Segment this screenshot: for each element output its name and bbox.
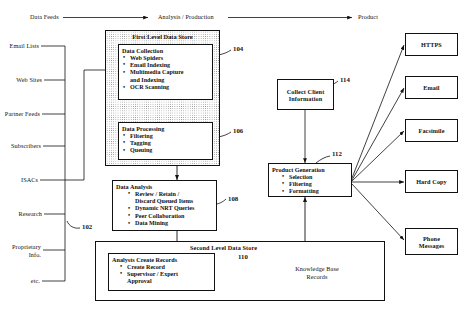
ref-number-108: 108 <box>228 195 238 202</box>
analysts-bullets: Create Record Supervisor / Expert Approv… <box>109 264 214 286</box>
data-processing-title: Data Processing <box>122 125 212 132</box>
source-label-research: Research <box>0 210 42 217</box>
collect-client-line1: Collect Client <box>278 88 333 95</box>
bullet-item: Selection <box>289 174 351 181</box>
bullet-item: Multimedia Capture <box>130 69 212 76</box>
output-box-https: HTTPS <box>405 33 458 56</box>
source-label-email-lists: Email Lists <box>0 42 39 49</box>
data-collection-bullets: Web Spiders Email Indexing Multimedia Ca… <box>119 55 212 92</box>
knowledge-base-label-line1: Knowledge Base <box>277 265 357 273</box>
bullet-item-continuation: Approval <box>127 278 214 285</box>
leader-102 <box>67 221 80 228</box>
output-label-phone-line1: Phone <box>406 235 457 242</box>
arrow-pg-to-https <box>352 45 404 178</box>
second-level-data-store-title: Second Level Data Store <box>190 244 257 251</box>
bullet-item-continuation: and Indexing <box>130 77 212 84</box>
bullet-item: Email Indexing <box>130 62 212 69</box>
stage-label-product: Product <box>358 13 378 20</box>
product-generation-title: Product Generation <box>272 166 351 173</box>
bullet-item: Peer Collaboration <box>135 213 216 220</box>
output-label-https: HTTPS <box>406 41 457 48</box>
output-box-hard-copy: Hard Copy <box>405 170 458 193</box>
source-label-web-sites: Web Sites <box>0 76 42 83</box>
source-label-partner-feeds: Partner Feeds <box>0 110 40 117</box>
knowledge-base-label-line2: Records <box>277 273 357 281</box>
bullet-item: Formatting <box>289 188 351 195</box>
first-level-data-store-title: First Level Data Store <box>105 33 220 40</box>
arrow-pg-to-phone-messages <box>352 184 404 240</box>
bullet-item: Tagging <box>130 140 212 147</box>
analysts-create-records-box: Analysts Create Records Create Record Su… <box>108 253 215 291</box>
ref-number-112: 112 <box>332 150 342 157</box>
ref-number-102: 102 <box>82 223 92 230</box>
ref-number-106: 106 <box>233 127 243 134</box>
data-collection-box: Data Collection Web Spiders Email Indexi… <box>118 44 213 100</box>
bullet-item: OCR Scanning <box>130 84 212 91</box>
ref-number-114: 114 <box>340 76 350 83</box>
output-label-email: Email <box>406 84 457 91</box>
analysts-create-records-title: Analysts Create Records <box>112 256 214 263</box>
ref-number-110: 110 <box>238 253 248 260</box>
ref-number-104: 104 <box>233 45 243 52</box>
data-collection-title: Data Collection <box>122 47 212 54</box>
leader-112 <box>316 156 330 163</box>
collect-client-line2: Information <box>278 95 333 102</box>
arrow-pg-to-facsimile <box>352 131 404 181</box>
bullet-item: Filtering <box>130 133 212 140</box>
data-processing-bullets: Filtering Tagging Queuing <box>119 133 212 155</box>
output-label-hard-copy: Hard Copy <box>406 178 457 185</box>
bullet-item: Filtering <box>289 181 351 188</box>
output-box-email: Email <box>405 76 458 99</box>
data-analysis-bullets: Review / Retain / Discard Queued Items D… <box>113 191 216 228</box>
output-label-facsimile: Facsimile <box>406 127 457 134</box>
stage-label-analysis-production: Analysis / Production <box>158 13 214 20</box>
source-label-subscribers: Subscribers <box>0 142 41 149</box>
patent-figure-diagram: Data Feeds Analysis / Production Product… <box>0 0 464 319</box>
bullet-item: Create Record <box>127 264 214 271</box>
data-processing-box: Data Processing Filtering Tagging Queuin… <box>118 122 213 160</box>
source-label-isacs: ISACs <box>0 176 38 183</box>
arrow-pg-to-email <box>352 88 404 180</box>
collect-client-information-box: Collect Client Information <box>277 79 334 110</box>
output-box-phone-messages: Phone Messages <box>405 228 458 255</box>
source-label-etc: etc. <box>0 277 40 284</box>
product-generation-box: Product Generation Selection Filtering F… <box>268 163 352 197</box>
data-analysis-title: Data Analysis <box>116 183 216 190</box>
bullet-item: Web Spiders <box>130 55 212 62</box>
bullet-item: Dynamic NRT Queries <box>135 205 216 212</box>
source-label-proprietary-info: Proprietary Info. <box>0 243 41 258</box>
output-box-facsimile: Facsimile <box>405 119 458 142</box>
bullet-item: Review / Retain / <box>135 191 216 198</box>
bullet-item: Data Mining <box>135 220 216 227</box>
data-analysis-box: Data Analysis Review / Retain / Discard … <box>112 180 217 231</box>
output-label-phone-line2: Messages <box>406 242 457 249</box>
stage-label-data-feeds: Data Feeds <box>30 13 59 20</box>
bullet-item-continuation: Discard Queued Items <box>135 198 216 205</box>
bullet-item: Supervisor / Expert <box>127 271 214 278</box>
product-generation-bullets: Selection Filtering Formatting <box>269 174 351 196</box>
bullet-item: Queuing <box>130 147 212 154</box>
